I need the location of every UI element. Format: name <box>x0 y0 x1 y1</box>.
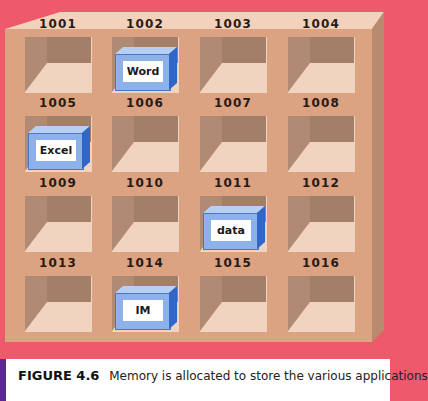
slot-back-wall <box>134 196 178 222</box>
cabinet-right-face <box>372 12 386 344</box>
memory-slot <box>112 196 179 252</box>
block-side <box>257 206 265 249</box>
memory-cell: 1011data <box>200 176 266 250</box>
cell-address: 1009 <box>25 176 91 190</box>
cell-address: 1008 <box>288 96 354 110</box>
caption-text: FIGURE 4.6 Memory is allocated to store … <box>18 368 428 383</box>
memory-cell: 1012 <box>288 176 354 250</box>
slot-back-wall <box>310 196 354 222</box>
memory-slot <box>288 276 355 332</box>
memory-slot <box>25 276 92 332</box>
slot-back-wall <box>47 196 91 222</box>
memory-slot <box>25 196 92 252</box>
memory-slot <box>200 276 267 332</box>
caption-accent-bar <box>0 359 6 401</box>
cell-address: 1007 <box>200 96 266 110</box>
slot-back-wall <box>222 116 266 142</box>
cell-address: 1011 <box>200 176 266 190</box>
memory-slot <box>200 37 267 93</box>
application-block: Word <box>115 47 177 90</box>
memory-cell: 1013 <box>25 256 91 330</box>
memory-slot <box>112 116 179 172</box>
cell-address: 1014 <box>112 256 178 270</box>
slot-back-wall <box>47 37 91 63</box>
block-side <box>82 126 90 169</box>
block-label: IM <box>123 300 163 321</box>
memory-cell: 1010 <box>112 176 178 250</box>
block-label: Word <box>123 61 163 82</box>
memory-cell: 1014IM <box>112 256 178 330</box>
memory-cell: 1003 <box>200 17 266 91</box>
memory-slot <box>288 37 355 93</box>
block-label: data <box>211 220 251 241</box>
memory-cell: 1007 <box>200 96 266 170</box>
memory-slot <box>288 116 355 172</box>
slot-back-wall <box>222 37 266 63</box>
application-block: Excel <box>28 126 90 169</box>
block-side <box>169 47 177 90</box>
cell-address: 1002 <box>112 17 178 31</box>
slot-back-wall <box>310 37 354 63</box>
block-side <box>169 286 177 329</box>
memory-slot <box>288 196 355 252</box>
memory-cell: 1009 <box>25 176 91 250</box>
cell-address: 1003 <box>200 17 266 31</box>
slot-back-wall <box>310 116 354 142</box>
memory-slot <box>200 116 267 172</box>
memory-cell: 1002Word <box>112 17 178 91</box>
block-label: Excel <box>36 140 76 161</box>
slot-back-wall <box>134 116 178 142</box>
memory-cell: 1015 <box>200 256 266 330</box>
cell-address: 1013 <box>25 256 91 270</box>
slot-back-wall <box>310 276 354 302</box>
cell-address: 1015 <box>200 256 266 270</box>
memory-cell: 1008 <box>288 96 354 170</box>
cell-address: 1001 <box>25 17 91 31</box>
cell-address: 1012 <box>288 176 354 190</box>
memory-cell: 1005Excel <box>25 96 91 170</box>
cell-address: 1005 <box>25 96 91 110</box>
figure-number: FIGURE 4.6 <box>18 368 99 383</box>
caption-body: Memory is allocated to store the various… <box>109 369 428 383</box>
memory-slot <box>25 37 92 93</box>
memory-cell: 1004 <box>288 17 354 91</box>
application-block: data <box>203 206 265 249</box>
memory-cell: 1001 <box>25 17 91 91</box>
memory-cell: 1016 <box>288 256 354 330</box>
memory-cabinet: 10011002Word100310041005Excel10061007100… <box>5 29 372 342</box>
cell-address: 1016 <box>288 256 354 270</box>
application-block: IM <box>115 286 177 329</box>
cell-address: 1004 <box>288 17 354 31</box>
memory-cell: 1006 <box>112 96 178 170</box>
cell-address: 1006 <box>112 96 178 110</box>
figure-caption: FIGURE 4.6 Memory is allocated to store … <box>0 359 390 401</box>
cell-address: 1010 <box>112 176 178 190</box>
slot-back-wall <box>47 276 91 302</box>
slot-back-wall <box>222 276 266 302</box>
